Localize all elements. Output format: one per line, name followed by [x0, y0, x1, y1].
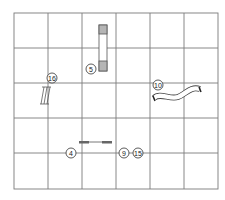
svg-text:16: 16	[48, 75, 56, 82]
obstacle-4-label: 4	[66, 148, 76, 158]
course-grid: 5 16 10	[0, 0, 225, 200]
obstacle-16-label: 16	[47, 73, 57, 83]
svg-text:15: 15	[134, 150, 142, 157]
svg-text:4: 4	[69, 150, 73, 157]
obstacle-5-label: 5	[86, 64, 96, 74]
svg-text:5: 5	[89, 66, 93, 73]
svg-text:10: 10	[154, 82, 162, 89]
bar-jump-icon	[79, 141, 112, 144]
contact-obstacle-icon	[99, 25, 107, 71]
obstacle-9-label: 9	[119, 148, 129, 158]
svg-text:9: 9	[122, 150, 126, 157]
ladder-jump-icon	[40, 87, 51, 104]
course-diagram: 5 16 10	[0, 0, 225, 200]
obstacle-10-label: 10	[153, 80, 163, 90]
obstacle-15-label: 15	[133, 148, 143, 158]
